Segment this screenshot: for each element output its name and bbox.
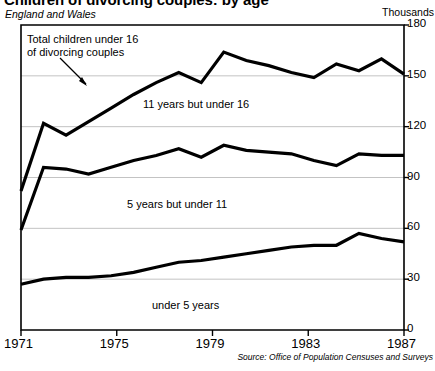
chart-figure: Children of divorcing couples: by age En… — [0, 0, 435, 371]
data-series-group — [21, 52, 404, 284]
annotation-line-2: of divorcing couples — [27, 46, 138, 59]
y-tick-label: 90 — [407, 170, 420, 182]
y-tick-label: 120 — [407, 119, 426, 131]
annotation-line-1: Total children under 16 — [27, 33, 138, 46]
series-label-bottom: under 5 years — [152, 299, 219, 312]
x-tick-label: 1979 — [196, 336, 225, 351]
y-tick-label: 60 — [407, 220, 420, 232]
series-label-total: 11 years but under 16 — [143, 98, 249, 111]
source-note: Source: Office of Population Censuses an… — [237, 352, 433, 362]
y-tick-label: 0 — [407, 322, 413, 334]
plot-area: Total children under 16 of divorcing cou… — [0, 0, 435, 371]
x-tick-label: 1987 — [387, 336, 416, 351]
annotation-label: Total children under 16 of divorcing cou… — [27, 33, 138, 59]
x-tick-label: 1971 — [4, 336, 33, 351]
y-tick-label: 30 — [407, 271, 420, 283]
series-label-middle: 5 years but under 11 — [127, 198, 227, 211]
annotation-arrow — [60, 58, 87, 86]
x-tick-label: 1983 — [291, 336, 320, 351]
x-tick-label: 1975 — [100, 336, 129, 351]
y-tick-label: 180 — [407, 17, 426, 29]
y-tick-label: 150 — [407, 68, 426, 80]
